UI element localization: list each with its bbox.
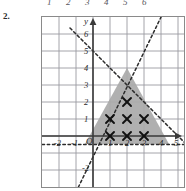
y-tick-label-3: 3: [84, 81, 88, 90]
cut-off-top-label-5: 5: [123, 0, 128, 7]
problem-number: 2.: [3, 11, 10, 21]
y-tick-label-6: 6: [84, 30, 88, 39]
x-tick-label-3: 3: [142, 139, 146, 148]
cut-off-top-label-3: 3: [85, 0, 90, 7]
x-tick-label-2: 2: [125, 139, 129, 148]
left-margin-mask: [0, 0, 41, 191]
y-tick-label-neg2: -2: [82, 164, 89, 173]
x-tick-label-neg1: -1: [71, 139, 78, 148]
cut-off-top-label-6: 6: [142, 0, 147, 7]
graph-canvas: [42, 17, 184, 187]
shaded-feasible-region: [85, 68, 169, 144]
x-tick-label-1: 1: [108, 139, 112, 148]
coordinate-graph: 6 5 4 3 2 1 -2 -2 -1 1 2 3 4 5 6 O x y: [41, 16, 185, 188]
y-tick-label-1: 1: [84, 115, 88, 124]
cut-off-top-label-1: 1: [47, 0, 52, 7]
y-tick-label-4: 4: [84, 64, 88, 73]
x-tick-label-neg2: -2: [54, 139, 61, 148]
y-tick-label-2: 2: [84, 98, 88, 107]
x-tick-label-5: 5: [174, 139, 178, 148]
cut-off-top-label-2: 2: [66, 0, 71, 7]
y-tick-label-5: 5: [84, 47, 88, 56]
y-axis-letter: y: [84, 16, 88, 26]
origin-label: O: [86, 137, 93, 146]
x-tick-label-4: 4: [159, 139, 163, 148]
cut-off-top-label-4: 4: [104, 0, 109, 7]
cut-off-top-number-strip: 123456: [0, 0, 186, 11]
y-axis-arrow: [90, 18, 97, 25]
